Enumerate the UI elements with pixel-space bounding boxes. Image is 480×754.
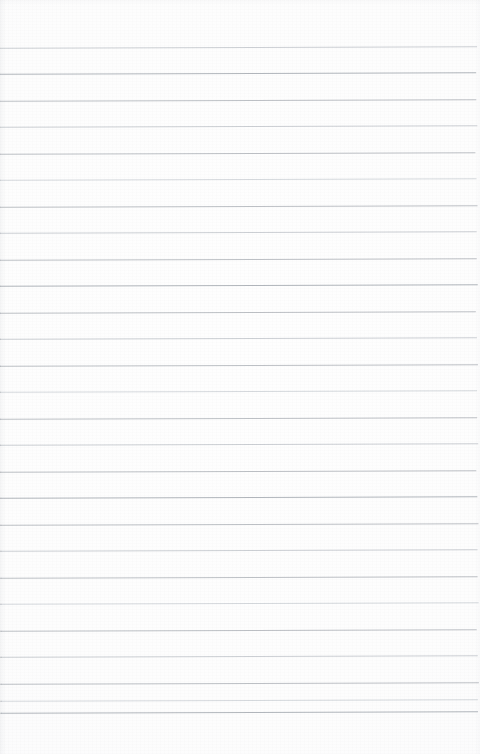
ruled-line: [0, 417, 477, 419]
ruled-line: [0, 99, 476, 101]
ruled-line: [0, 443, 478, 445]
ruled-line: [0, 523, 478, 525]
ruled-line: [0, 549, 477, 551]
ruled-line: [1, 655, 478, 657]
ruled-line: [0, 231, 477, 233]
ruled-line: [1, 576, 478, 578]
ruled-line: [0, 284, 478, 286]
ruled-line: [0, 337, 477, 339]
ruled-line: [0, 178, 476, 180]
ruled-line: [1, 602, 479, 604]
ruled-line: [1, 711, 478, 713]
scanned-page: [0, 0, 480, 754]
ruled-line: [0, 258, 477, 260]
ruled-line: [0, 205, 478, 207]
ruled-lines-layer: [0, 0, 480, 754]
ruled-line: [0, 311, 476, 313]
ruled-line: [0, 470, 476, 472]
ruled-line: [1, 629, 477, 631]
ruled-line: [1, 699, 478, 701]
ruled-line: [0, 152, 475, 154]
ruled-line: [0, 125, 477, 127]
ruled-line: [0, 390, 477, 392]
ruled-line: [1, 682, 479, 684]
ruled-line: [0, 72, 476, 74]
ruled-line: [0, 496, 477, 498]
ruled-line: [0, 46, 477, 48]
ruled-line: [0, 364, 478, 366]
